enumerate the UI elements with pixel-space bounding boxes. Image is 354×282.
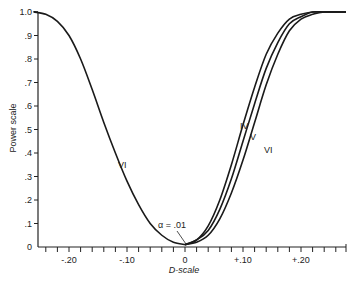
alpha-annotation-pointer (177, 231, 186, 244)
curve-label-vi-left: VI (118, 160, 127, 170)
x-tick-label: -.10 (119, 255, 135, 265)
y-tick-label: .9 (24, 31, 32, 41)
y-tick-label: .8 (24, 54, 32, 64)
curve-iv-positive (185, 12, 346, 245)
x-tick-label: -.20 (61, 255, 77, 265)
x-tick-label: +.10 (234, 255, 252, 265)
y-tick-label: .2 (24, 195, 32, 205)
y-tick-label: .1 (24, 219, 32, 229)
y-axis-title: Power scale (8, 103, 18, 152)
y-tick-label: .6 (24, 101, 32, 111)
y-tick-label: .3 (24, 172, 32, 182)
x-tick-label: 0 (182, 255, 187, 265)
y-tick-label: .5 (24, 125, 32, 135)
y-tick-label: 1.0 (19, 7, 32, 17)
curve-label-iv: IV (240, 121, 249, 131)
curve-label-vi-right: VI (264, 145, 273, 155)
y-tick-label: 0 (27, 242, 32, 252)
power-curves (34, 12, 346, 245)
curve-vi-positive (185, 12, 346, 245)
x-tick-label: +.20 (292, 255, 310, 265)
y-tick-label: .7 (24, 78, 32, 88)
y-tick-label: .4 (24, 148, 32, 158)
curve-label-v: V (250, 132, 256, 142)
curve-vi-negative (34, 12, 185, 245)
alpha-annotation: α = .01 (158, 220, 186, 230)
power-curve-chart: 0.1.2.3.4.5.6.7.8.91.0-.20-.100+.10+.20 … (0, 0, 354, 282)
x-axis-title: D-scale (169, 265, 200, 275)
curve-v-positive (185, 12, 346, 245)
